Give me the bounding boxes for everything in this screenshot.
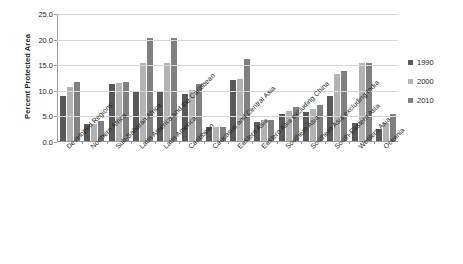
bar-2000 xyxy=(67,87,73,141)
bar-group xyxy=(58,14,82,141)
x-label-slot: Latin America xyxy=(155,143,179,263)
legend-label: 1990 xyxy=(417,58,434,67)
y-tick-mark xyxy=(54,91,57,92)
x-label-slot: Northern Africa xyxy=(82,143,106,263)
bar-2010 xyxy=(366,63,372,141)
x-label-slot: Developed Regions xyxy=(58,143,82,263)
x-label-slot: Latin America and the Caribbean xyxy=(131,143,155,263)
bar-1990 xyxy=(60,96,66,141)
bar-2010 xyxy=(244,59,250,141)
legend-label: 2010 xyxy=(417,96,434,105)
legend-item-2000[interactable]: 2000 xyxy=(408,77,434,86)
bar-2000 xyxy=(140,63,146,141)
bar-2000 xyxy=(237,79,243,141)
x-label-slot: Southern Asia excluding India xyxy=(302,143,326,263)
plot-area: 0.05.010.015.020.025.0 xyxy=(57,14,398,142)
y-tick-mark xyxy=(54,40,57,41)
x-label-slot: Southern Asia xyxy=(277,143,301,263)
grid-line xyxy=(57,40,398,41)
bar-2000 xyxy=(334,74,340,141)
y-tick-label: 5.0 xyxy=(43,112,53,121)
x-axis-labels: Developed RegionsNorthern AfricaSub-Saha… xyxy=(58,143,399,263)
x-label-slot: Eastern Asia xyxy=(229,143,253,263)
x-label-slot: South-Eastern Asia xyxy=(326,143,350,263)
x-label-slot: Oceania xyxy=(375,143,399,263)
x-label-slot: Caucasus and Central Asia xyxy=(204,143,228,263)
y-tick-mark xyxy=(54,116,57,117)
x-label-slot: Sub-Saharan Africa xyxy=(107,143,131,263)
legend-item-2010[interactable]: 2010 xyxy=(408,96,434,105)
y-tick-label: 20.0 xyxy=(38,35,53,44)
legend-item-1990[interactable]: 1990 xyxy=(408,58,434,67)
bar-2010 xyxy=(147,38,153,141)
bar-2000 xyxy=(164,63,170,141)
y-tick-label: 15.0 xyxy=(38,61,53,70)
x-label-slot: Caribbean xyxy=(180,143,204,263)
legend-label: 2000 xyxy=(417,77,434,86)
bar-2010 xyxy=(171,38,177,141)
y-tick-label: 0.0 xyxy=(43,138,53,147)
x-label-slot: Eastern Asia excluding China xyxy=(253,143,277,263)
y-tick-label: 25.0 xyxy=(38,10,53,19)
y-tick-mark xyxy=(54,14,57,15)
chart-legend: 199020002010 xyxy=(408,58,434,105)
bar-chart: Percent Protected Area 0.05.010.015.020.… xyxy=(0,0,463,264)
bar-groups xyxy=(58,14,398,141)
grid-line xyxy=(57,65,398,66)
x-label-slot: Western Asia xyxy=(350,143,374,263)
legend-swatch-icon xyxy=(408,79,413,84)
y-tick-mark xyxy=(54,65,57,66)
grid-line xyxy=(57,14,398,15)
y-tick-label: 10.0 xyxy=(38,86,53,95)
legend-swatch-icon xyxy=(408,98,413,103)
y-axis-title: Percent Protected Area xyxy=(23,12,32,142)
y-tick-mark xyxy=(54,142,57,143)
grid-line xyxy=(57,91,398,92)
legend-swatch-icon xyxy=(408,60,413,65)
